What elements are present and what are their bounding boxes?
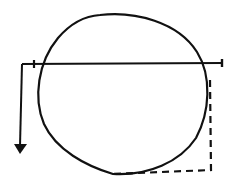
background — [0, 0, 238, 187]
diagram-canvas — [0, 0, 238, 187]
horizontal-line — [22, 63, 222, 64]
